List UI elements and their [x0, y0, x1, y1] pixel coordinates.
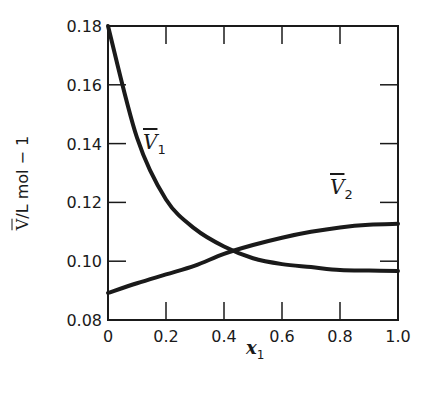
curve-label-v1-symbol: V — [143, 130, 157, 154]
y-tick-label: 0.16 — [66, 76, 102, 95]
y-tick-label: 0.14 — [66, 135, 102, 154]
y-axis-label-units: /L mol − 1 — [13, 136, 32, 219]
x-tick-label: 1.0 — [385, 327, 410, 346]
y-tick-label: 0.08 — [66, 311, 102, 330]
y-axis-label: V/L mol − 1 — [13, 136, 32, 231]
x-axis-label-var: x — [246, 337, 257, 358]
curve-label-v2-symbol: V — [330, 175, 344, 199]
x-tick-label: 0 — [103, 327, 113, 346]
curve-label-v2: V2 — [330, 175, 353, 202]
x-axis-label: x1 — [246, 337, 264, 362]
curve-label-v2-sub: 2 — [344, 187, 352, 202]
x-tick-label: 0.6 — [269, 327, 294, 346]
x-tick-label: 0.4 — [211, 327, 236, 346]
y-tick-label: 0.18 — [66, 17, 102, 36]
plot-area: 00.20.40.60.81.00.080.100.120.140.160.18 — [0, 0, 433, 396]
x-tick-label: 0.2 — [153, 327, 178, 346]
partial-molar-volume-chart: 00.20.40.60.81.00.080.100.120.140.160.18… — [0, 0, 433, 396]
curve-label-v1: V1 — [143, 130, 166, 157]
y-axis-label-symbol: V — [13, 219, 32, 231]
y-tick-label: 0.12 — [66, 193, 102, 212]
y-tick-label: 0.10 — [66, 252, 102, 271]
x-tick-label: 0.8 — [327, 327, 352, 346]
x-axis-label-sub: 1 — [257, 348, 265, 362]
curve-label-v1-sub: 1 — [157, 142, 165, 157]
